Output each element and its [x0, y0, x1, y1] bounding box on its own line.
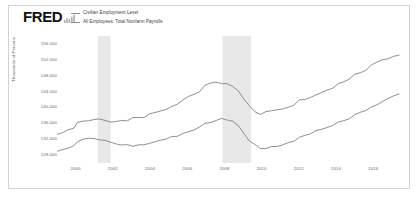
- x-tick-label: 2002: [108, 166, 118, 171]
- x-tick-label: 2000: [71, 166, 81, 171]
- legend-label: Civilian Employment Level: [83, 10, 138, 16]
- legend-label: All Employees: Total Nonfarm Payrolls: [83, 19, 163, 25]
- y-tick-label: 136,000: [13, 120, 57, 125]
- recession-band: [98, 36, 111, 163]
- x-tick-label: 2008: [219, 166, 229, 171]
- y-tick-label: 140,000: [13, 104, 57, 109]
- y-tick-label: 148,000: [13, 73, 57, 78]
- fred-logo: FRED: [23, 9, 75, 24]
- chart-canvas: [57, 36, 401, 163]
- fred-chart-card: FRED Civilian Employment Level All Emplo…: [8, 5, 410, 189]
- series-plot: [57, 36, 401, 163]
- y-tick-label: 132,000: [13, 136, 57, 141]
- y-tick-label: 156,000: [13, 41, 57, 46]
- recession-band: [223, 36, 252, 163]
- legend-item-nonfarm-payrolls[interactable]: All Employees: Total Nonfarm Payrolls: [71, 18, 163, 26]
- y-tick-label: 152,000: [13, 57, 57, 62]
- y-axis-ticks: 156,000152,000148,000144,000140,000136,0…: [9, 32, 57, 190]
- chart-legend: Civilian Employment Level All Employees:…: [71, 9, 163, 27]
- chart-header: FRED Civilian Employment Level All Emplo…: [9, 6, 409, 32]
- legend-marker-line: [71, 13, 80, 14]
- plot-area: Thousands of Persons 156,000152,000148,0…: [9, 32, 409, 190]
- x-tick-label: 2010: [257, 166, 267, 171]
- x-tick-label: 2012: [294, 166, 304, 171]
- y-tick-label: 144,000: [13, 89, 57, 94]
- legend-marker-line: [71, 22, 80, 23]
- x-tick-label: 2016: [368, 166, 378, 171]
- y-tick-label: 128,000: [13, 152, 57, 157]
- legend-item-civilian-employment[interactable]: Civilian Employment Level: [71, 9, 163, 17]
- fred-wordmark: FRED: [23, 9, 62, 24]
- x-tick-label: 2006: [182, 166, 192, 171]
- x-axis-ticks: 200020022004200620082010201220142016: [57, 163, 401, 183]
- x-tick-label: 2004: [145, 166, 155, 171]
- x-tick-label: 2014: [331, 166, 341, 171]
